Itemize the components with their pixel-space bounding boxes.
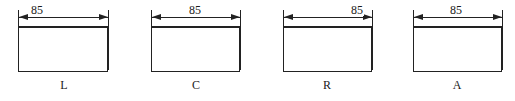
arrowhead-left-icon (414, 14, 423, 20)
dimension-text: 85 (350, 4, 364, 16)
arrowhead-right-icon (363, 14, 372, 20)
extension-line-right (502, 10, 503, 70)
arrowhead-right-icon (493, 14, 502, 20)
rectangle (283, 26, 372, 72)
dimension-line (284, 17, 372, 18)
dimension-text: 85 (449, 4, 463, 16)
arrowhead-left-icon (284, 14, 293, 20)
arrowhead-left-icon (19, 14, 28, 20)
figure-label: L (54, 78, 74, 93)
dimension-line (152, 17, 240, 18)
figure-label: C (186, 78, 206, 93)
arrowhead-right-icon (99, 14, 108, 20)
dimension-line (414, 17, 502, 18)
dimension-text: 85 (188, 4, 202, 16)
dimension-line (19, 17, 108, 18)
extension-line-right (240, 10, 241, 70)
extension-line-right (108, 10, 109, 70)
rectangle (413, 26, 502, 72)
extension-line-right (372, 10, 373, 70)
figure-label: R (317, 78, 337, 93)
figure-label: A (447, 78, 467, 93)
rectangle (18, 26, 108, 72)
dimension-text: 85 (30, 4, 44, 16)
arrowhead-right-icon (231, 14, 240, 20)
rectangle (151, 26, 240, 72)
arrowhead-left-icon (152, 14, 161, 20)
